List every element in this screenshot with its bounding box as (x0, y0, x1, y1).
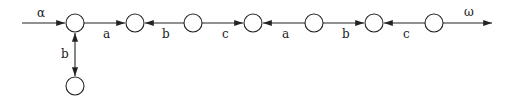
output-label: ω (464, 5, 474, 19)
edge-label-b-1: b (162, 27, 170, 41)
edge-label-b-vertical: b (61, 47, 69, 61)
node-7 (425, 14, 443, 32)
input-label: α (37, 6, 45, 20)
node-4 (244, 14, 262, 32)
node-5 (305, 14, 323, 32)
edge-label-b-2: b (342, 27, 350, 41)
edge-label-c-1: c (222, 27, 229, 41)
edge-label-a-2: a (282, 27, 289, 41)
node-3 (184, 14, 202, 32)
node-6 (365, 14, 383, 32)
node-2 (126, 14, 144, 32)
string-diagram: α ω a b c a b c b (0, 0, 516, 103)
edge-label-a-1: a (103, 27, 110, 41)
edge-label-c-2: c (403, 27, 410, 41)
node-8 (66, 77, 84, 95)
node-1 (66, 14, 84, 32)
